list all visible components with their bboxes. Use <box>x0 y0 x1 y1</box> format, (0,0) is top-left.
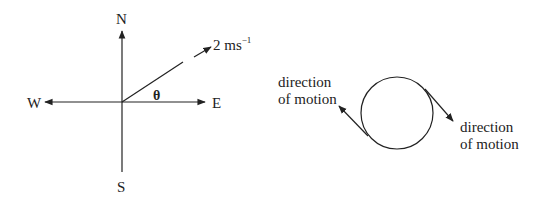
right-direction-label-line2: of motion <box>460 136 519 152</box>
circular-motion-diagram: direction of motion direction of motion <box>278 74 519 152</box>
physics-diagrams: N S E W θ 2 ms−1 direction of motion dir… <box>0 0 543 205</box>
right-tangent-arrow <box>425 89 453 121</box>
left-tangent-arrow <box>339 106 368 136</box>
angle-theta-label: θ <box>153 88 160 103</box>
compass-diagram: N S E W θ 2 ms−1 <box>27 11 251 195</box>
right-direction-label-line1: direction <box>460 119 514 135</box>
left-direction-label-line1: direction <box>278 74 332 90</box>
north-label: N <box>116 11 127 27</box>
velocity-label: 2 ms−1 <box>213 35 251 53</box>
south-label: S <box>117 179 125 195</box>
circle-path <box>361 77 433 149</box>
left-direction-label-line2: of motion <box>278 91 337 107</box>
velocity-arrow <box>194 47 211 57</box>
east-label: E <box>212 95 221 111</box>
west-label: W <box>27 95 42 111</box>
